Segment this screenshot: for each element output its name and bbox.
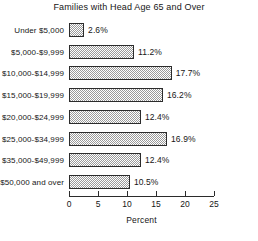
bar-value-label: 17.7% bbox=[176, 68, 201, 78]
category-label: $35,000-$49,999 bbox=[0, 156, 64, 165]
bar bbox=[69, 153, 141, 167]
x-axis-tick bbox=[156, 191, 157, 196]
chart-container: Families with Head Age 65 and Over Under… bbox=[0, 0, 258, 241]
category-label: Under $5,000 bbox=[0, 25, 64, 34]
x-axis-tick-label: 10 bbox=[122, 199, 131, 209]
bar-row: $35,000-$49,99912.4% bbox=[0, 150, 258, 172]
bar-row: $5,000-$9,99911.2% bbox=[0, 41, 258, 63]
x-axis-tick-label: 0 bbox=[67, 199, 72, 209]
bar-value-label: 12.4% bbox=[145, 155, 170, 165]
x-axis-tick bbox=[185, 191, 186, 196]
bar-row: $10,000-$14,99917.7% bbox=[0, 63, 258, 85]
bar bbox=[69, 88, 163, 102]
category-label: $25,000-$34,999 bbox=[0, 134, 64, 143]
category-label: $15,000-$19,999 bbox=[0, 91, 64, 100]
category-label: $5,000-$9,999 bbox=[0, 47, 64, 56]
x-axis-tick-label: 25 bbox=[209, 199, 218, 209]
x-axis-tick bbox=[98, 191, 99, 196]
category-label: $20,000-$24,999 bbox=[0, 112, 64, 121]
x-axis-tick bbox=[214, 191, 215, 196]
bar-row: $20,000-$24,99912.4% bbox=[0, 106, 258, 128]
bar bbox=[69, 45, 134, 59]
x-axis-line bbox=[69, 196, 214, 197]
bar bbox=[69, 132, 167, 146]
bar bbox=[69, 66, 172, 80]
bar-row: Under $5,0002.6% bbox=[0, 19, 258, 41]
bar-row: $25,000-$34,99916.9% bbox=[0, 128, 258, 150]
x-axis-tick bbox=[127, 191, 128, 196]
bar-row: $15,000-$19,99916.2% bbox=[0, 84, 258, 106]
bar-value-label: 10.5% bbox=[134, 177, 159, 187]
category-label: $50,000 and over bbox=[0, 178, 64, 187]
x-axis-tick-label: 20 bbox=[180, 199, 189, 209]
bar-value-label: 12.4% bbox=[145, 112, 170, 122]
category-label: $10,000-$14,999 bbox=[0, 69, 64, 78]
bar bbox=[69, 110, 141, 124]
x-axis-title: Percent bbox=[69, 215, 214, 225]
x-axis-tick-label: 5 bbox=[96, 199, 101, 209]
bar-value-label: 16.9% bbox=[171, 134, 196, 144]
x-axis-tick bbox=[69, 191, 70, 196]
bar-value-label: 11.2% bbox=[138, 47, 162, 57]
x-axis-tick-label: 15 bbox=[151, 199, 160, 209]
bar-value-label: 2.6% bbox=[88, 25, 108, 35]
bar-row: $50,000 and over10.5% bbox=[0, 171, 258, 193]
bar bbox=[69, 23, 84, 37]
bar bbox=[69, 175, 130, 189]
bar-value-label: 16.2% bbox=[167, 90, 192, 100]
